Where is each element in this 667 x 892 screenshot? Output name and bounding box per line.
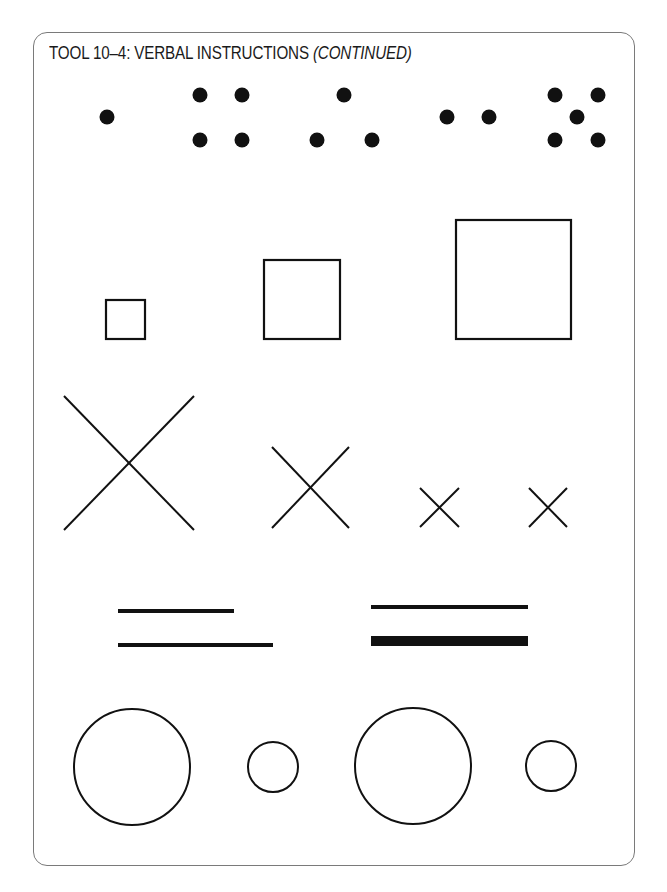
- dot: [591, 133, 606, 148]
- cross-small: [420, 488, 459, 527]
- line-left-short-thin: [118, 609, 234, 613]
- square-small: [106, 300, 145, 339]
- dot: [310, 133, 325, 148]
- circle-small: [248, 742, 298, 792]
- squares-row: [106, 220, 571, 339]
- line-left-long-thin: [118, 643, 273, 647]
- dot-group-1: [100, 110, 115, 125]
- circle-large: [74, 709, 190, 825]
- dot: [235, 133, 250, 148]
- dot: [235, 88, 250, 103]
- dot-group-4: [193, 88, 250, 148]
- dot-group-3: [310, 88, 380, 148]
- square-medium: [264, 260, 340, 339]
- square-large: [456, 220, 571, 339]
- dot: [193, 88, 208, 103]
- dot-patterns-row: [100, 88, 606, 148]
- cross-large: [64, 396, 194, 530]
- cross-medium: [272, 447, 349, 528]
- cross-small: [529, 488, 567, 527]
- figure-canvas: [0, 0, 667, 892]
- dot: [591, 88, 606, 103]
- dot: [365, 133, 380, 148]
- dot: [548, 88, 563, 103]
- dot: [337, 88, 352, 103]
- dot: [548, 133, 563, 148]
- dot: [100, 110, 115, 125]
- dot: [193, 133, 208, 148]
- circle-large: [355, 708, 471, 824]
- dot: [570, 110, 585, 125]
- dot: [482, 110, 497, 125]
- line-right-thick: [371, 636, 528, 646]
- dot: [440, 110, 455, 125]
- lines-row: [118, 605, 528, 647]
- circle-small: [526, 741, 576, 791]
- dot-group-2: [440, 110, 497, 125]
- circles-row: [74, 708, 576, 825]
- crosses-row: [64, 396, 567, 530]
- line-right-thin: [371, 605, 528, 609]
- dot-group-5: [548, 88, 606, 148]
